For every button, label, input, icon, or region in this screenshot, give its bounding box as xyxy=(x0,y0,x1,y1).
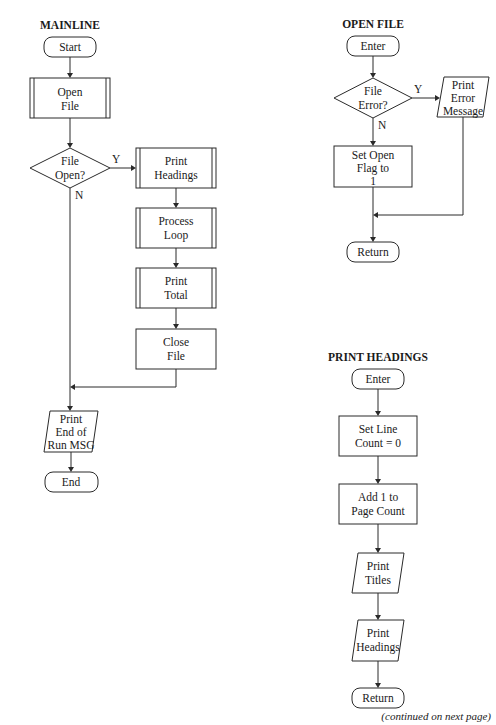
no-label: N xyxy=(378,119,387,131)
print-headings-title: PRINT HEADINGS xyxy=(328,351,428,363)
arrow-head-icon xyxy=(67,73,73,78)
arrow-head-icon xyxy=(375,479,381,484)
arrow-head-icon xyxy=(370,141,376,146)
continued-note: (continued on next page) xyxy=(381,710,491,723)
arrow-head-icon xyxy=(68,467,74,472)
mainline-flowchart: MAINLINE Start Open File File Open? Y N xyxy=(30,19,216,492)
set-flag-label-3: 1 xyxy=(370,175,376,187)
arrow-head-icon xyxy=(375,683,381,688)
process-loop-process: Process Loop xyxy=(136,208,216,248)
set-flag-label-2: Flag to xyxy=(357,162,390,175)
print-headings-flowchart: PRINT HEADINGS Enter Set Line Count = 0 … xyxy=(328,351,428,708)
yes-label: Y xyxy=(414,83,423,95)
print-headings-io-label-2: Headings xyxy=(356,641,400,654)
set-line-label-2: Count = 0 xyxy=(355,437,401,449)
print-headings-io-label-1: Print xyxy=(367,627,390,639)
add-page-count-process: Add 1 to Page Count xyxy=(339,484,417,524)
open-file-title: OPEN FILE xyxy=(342,18,404,30)
return-terminator: Return xyxy=(347,242,399,262)
print-titles-label-2: Titles xyxy=(365,574,391,586)
print-error-message-io: Print Error Message xyxy=(437,77,489,118)
mainline-title: MAINLINE xyxy=(40,19,100,31)
close-file-label-1: Close xyxy=(163,336,189,348)
print-total-process: Print Total xyxy=(136,268,216,308)
print-end-label-2: End of xyxy=(56,426,87,438)
arrow-head-icon xyxy=(375,615,381,620)
set-flag-label-1: Set Open xyxy=(352,149,395,162)
print-end-label-1: Print xyxy=(60,413,83,425)
print-headings-process: Print Headings xyxy=(136,148,216,188)
print-end-of-run-io: Print End of Run MSG xyxy=(44,411,98,452)
arrow-head-icon xyxy=(375,548,381,553)
close-file-label-2: File xyxy=(167,350,185,362)
start-label: Start xyxy=(59,41,82,53)
arrow-head-icon xyxy=(131,165,136,171)
open-file-label-2: File xyxy=(61,100,79,112)
add-page-label-2: Page Count xyxy=(351,505,405,518)
end-terminator: End xyxy=(45,472,98,492)
enter-label: Enter xyxy=(361,40,386,52)
open-file-process: Open File xyxy=(30,78,110,118)
open-file-label-1: Open xyxy=(58,86,83,99)
print-headings-label-2: Headings xyxy=(154,169,198,182)
open-file-flowchart: OPEN FILE Enter File Error? Y N Print Er… xyxy=(334,18,489,262)
return-label: Return xyxy=(362,692,394,704)
file-error-label-1: File xyxy=(364,85,382,97)
process-loop-label-2: Loop xyxy=(164,229,189,242)
print-total-label-2: Total xyxy=(164,289,187,301)
arrow-head-icon xyxy=(173,324,179,329)
start-terminator: Start xyxy=(44,37,96,57)
yes-label: Y xyxy=(112,153,121,165)
arrow-head-icon xyxy=(67,143,73,148)
return-label: Return xyxy=(357,246,389,258)
arrow-head-icon xyxy=(173,263,179,268)
no-label: N xyxy=(75,189,84,201)
print-headings-io: Print Headings xyxy=(352,620,404,661)
print-error-label-2: Error xyxy=(451,92,475,104)
arrow-head-icon xyxy=(375,411,381,416)
print-titles-io: Print Titles xyxy=(352,553,404,593)
print-error-label-3: Message xyxy=(443,105,483,118)
flowchart-canvas: MAINLINE Start Open File File Open? Y N xyxy=(0,0,496,725)
file-error-label-2: Error? xyxy=(358,99,387,111)
arrow-head-icon xyxy=(173,203,179,208)
end-label: End xyxy=(62,476,81,488)
decision-label-1: File xyxy=(61,155,79,167)
arrow-head-icon xyxy=(70,384,75,390)
arrow-head-icon xyxy=(373,212,378,218)
arrow-head-icon xyxy=(435,95,440,101)
enter-terminator: Enter xyxy=(352,369,404,389)
close-file-process: Close File xyxy=(136,329,216,369)
print-headings-label-1: Print xyxy=(165,155,188,167)
print-titles-label-1: Print xyxy=(367,560,390,572)
print-end-label-3: Run MSG xyxy=(48,439,95,451)
arrow-head-icon xyxy=(67,406,73,411)
file-error-decision: File Error? xyxy=(334,78,412,118)
enter-terminator: Enter xyxy=(347,36,399,56)
enter-label: Enter xyxy=(366,373,391,385)
set-open-flag-process: Set Open Flag to 1 xyxy=(334,146,412,187)
add-page-label-1: Add 1 to xyxy=(358,491,399,503)
decision-label-2: Open? xyxy=(55,169,85,182)
return-terminator: Return xyxy=(352,688,404,708)
process-loop-label-1: Process xyxy=(158,215,194,227)
arrow-head-icon xyxy=(370,73,376,78)
print-error-label-1: Print xyxy=(452,79,475,91)
set-line-label-1: Set Line xyxy=(359,423,398,435)
set-line-count-process: Set Line Count = 0 xyxy=(339,416,417,456)
print-total-label-1: Print xyxy=(165,275,188,287)
file-open-decision: File Open? xyxy=(30,148,110,188)
arrow-head-icon xyxy=(370,237,376,242)
